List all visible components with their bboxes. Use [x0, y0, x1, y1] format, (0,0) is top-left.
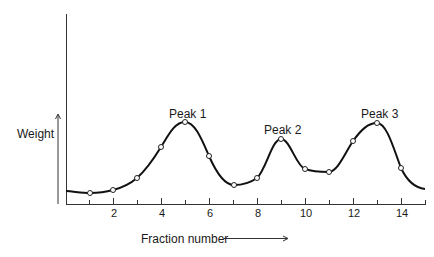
x-tick-label: 12	[348, 207, 360, 219]
x-arrow-icon	[224, 236, 288, 241]
x-axis-label: Fraction number	[141, 232, 228, 246]
peak-2-label: Peak 2	[264, 123, 301, 137]
x-tick-label: 4	[159, 207, 165, 219]
x-tick-label: 8	[255, 207, 261, 219]
x-tick-label: 10	[300, 207, 312, 219]
peak-1-label: Peak 1	[169, 107, 206, 121]
chart-canvas	[0, 0, 434, 257]
x-tick-label: 14	[396, 207, 408, 219]
x-tick-label: 2	[111, 207, 117, 219]
weight-curve	[66, 122, 425, 193]
x-ticks	[90, 198, 426, 204]
y-arrow-icon	[56, 114, 61, 204]
y-axis-label: Weight	[17, 127, 54, 141]
x-tick-label: 6	[207, 207, 213, 219]
peak-3-label: Peak 3	[361, 107, 398, 121]
